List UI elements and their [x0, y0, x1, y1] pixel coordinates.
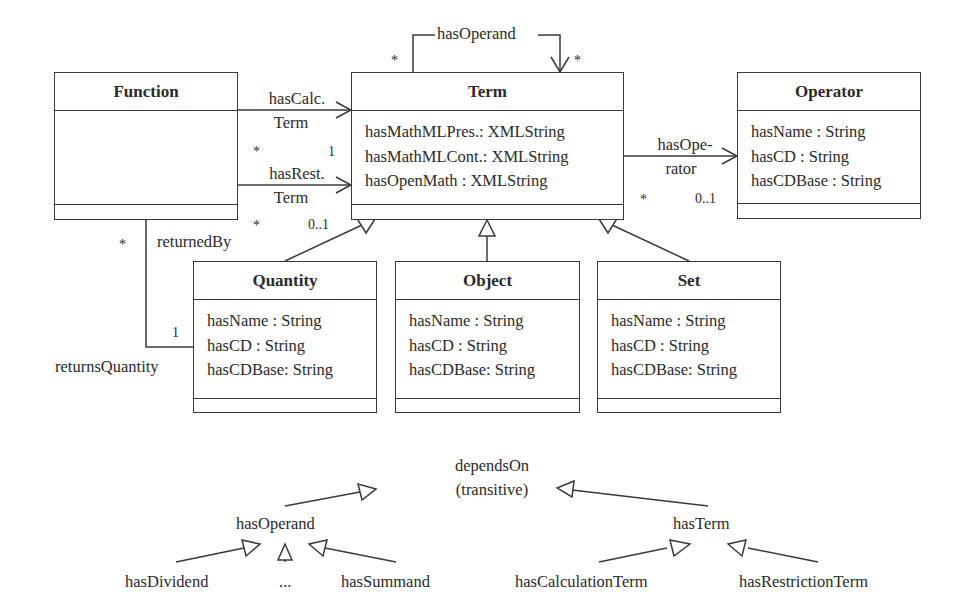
multiplicity: 0..1 — [695, 192, 716, 206]
class-attributes: hasMathMLPres.: XMLString hasMathMLCont.… — [352, 111, 623, 205]
label-line: hasRest. — [252, 164, 342, 184]
multiplicity: * — [119, 238, 126, 252]
attribute: hasCDBase: String — [207, 358, 376, 383]
ellipsis-node: ... — [279, 572, 291, 592]
multiplicity: 0..1 — [308, 218, 329, 232]
attribute: hasMathMLPres.: XMLString — [365, 120, 623, 145]
hollow-triangle-icon — [278, 544, 292, 560]
hollow-triangle-icon — [309, 540, 327, 556]
class-name: Object — [396, 262, 579, 300]
class-function[interactable]: Function — [54, 72, 238, 220]
has-dividend-to-has-operand — [176, 548, 244, 562]
attribute: hasCD : String — [207, 334, 376, 359]
class-name: Set — [598, 262, 780, 300]
has-operand-to-depends-on — [285, 492, 360, 506]
class-attributes: hasName : String hasCD : String hasCDBas… — [598, 300, 780, 399]
has-rest-term-label: hasRest. Term — [252, 164, 342, 208]
hollow-triangle-icon — [670, 540, 690, 556]
has-calculation-term-node: hasCalculationTerm — [515, 572, 648, 592]
open-arrowhead-icon — [551, 57, 569, 72]
multiplicity: * — [253, 145, 260, 159]
multiplicity: 1 — [172, 326, 179, 340]
attribute: hasCDBase: String — [409, 358, 579, 383]
multiplicity: * — [574, 54, 581, 68]
attribute: hasCD : String — [409, 334, 579, 359]
class-attributes: hasName : String hasCD : String hasCDBas… — [738, 111, 920, 204]
has-summand-node: hasSummand — [341, 572, 430, 592]
class-operator[interactable]: Operator hasName : String hasCD : String… — [737, 72, 921, 219]
has-operator-label: hasOpe- rator — [640, 135, 730, 179]
attribute: hasCD : String — [751, 145, 920, 170]
uml-diagram: Function Term hasMathMLPres.: XMLString … — [0, 0, 969, 614]
label-line: dependsOn — [422, 454, 562, 478]
has-summand-to-has-operand — [325, 548, 396, 562]
has-calc-term-label: hasCalc. Term — [252, 89, 342, 133]
class-object[interactable]: Object hasName : String hasCD : String h… — [395, 261, 580, 413]
attribute: hasName : String — [409, 309, 579, 334]
attribute: hasName : String — [751, 120, 920, 145]
class-operations — [194, 399, 376, 413]
class-name: Term — [352, 73, 623, 111]
has-dividend-node: hasDividend — [125, 572, 208, 592]
class-quantity[interactable]: Quantity hasName : String hasCD : String… — [193, 261, 377, 413]
multiplicity: 1 — [328, 145, 335, 159]
has-restriction-term-to-has-term — [748, 548, 818, 562]
has-restriction-term-node: hasRestrictionTerm — [739, 572, 868, 592]
attribute: hasName : String — [207, 309, 376, 334]
label-line: hasOpe- — [640, 135, 730, 155]
class-term[interactable]: Term hasMathMLPres.: XMLString hasMathML… — [351, 72, 624, 220]
hollow-triangle-icon — [728, 540, 746, 556]
has-operand-label: hasOperand — [437, 24, 516, 44]
class-attributes: hasName : String hasCD : String hasCDBas… — [396, 300, 579, 399]
class-operations — [55, 205, 237, 219]
multiplicity: * — [391, 54, 398, 68]
set-generalization — [612, 225, 689, 261]
depends-on-label: dependsOn (transitive) — [422, 454, 562, 502]
has-operand-self-assoc — [413, 35, 435, 72]
attribute: hasMathMLCont.: XMLString — [365, 145, 623, 170]
returns-quantity-label: returnsQuantity — [55, 357, 159, 377]
label-line: (transitive) — [422, 478, 562, 502]
class-attributes: hasName : String hasCD : String hasCDBas… — [194, 300, 376, 399]
class-name: Function — [55, 73, 237, 111]
attribute: hasOpenMath : XMLString — [365, 169, 623, 194]
label-line: rator — [632, 159, 730, 179]
has-operand-node: hasOperand — [236, 514, 315, 534]
attribute: hasCDBase: String — [611, 358, 780, 383]
returned-by-label: returnedBy — [157, 232, 231, 252]
has-term-to-depends-on — [572, 490, 708, 506]
multiplicity: * — [253, 219, 260, 233]
label-line: Term — [240, 188, 342, 208]
class-operations — [396, 399, 579, 413]
hollow-triangle-icon — [242, 540, 260, 556]
attribute: hasName : String — [611, 309, 780, 334]
label-line: hasCalc. — [252, 89, 342, 109]
class-set[interactable]: Set hasName : String hasCD : String hasC… — [597, 261, 781, 413]
class-operations — [738, 204, 920, 218]
hollow-triangle-icon — [358, 484, 376, 500]
attribute: hasCD : String — [611, 334, 780, 359]
has-calc-term-to-has-term — [599, 548, 667, 562]
class-operations — [598, 399, 780, 413]
hollow-triangle-icon — [479, 220, 495, 236]
class-name: Operator — [738, 73, 920, 111]
has-term-node: hasTerm — [673, 514, 730, 534]
label-line: Term — [240, 113, 342, 133]
attribute: hasCDBase : String — [751, 169, 920, 194]
multiplicity: * — [640, 193, 647, 207]
class-name: Quantity — [194, 262, 376, 300]
class-operations — [352, 205, 623, 219]
class-attributes — [55, 111, 237, 205]
